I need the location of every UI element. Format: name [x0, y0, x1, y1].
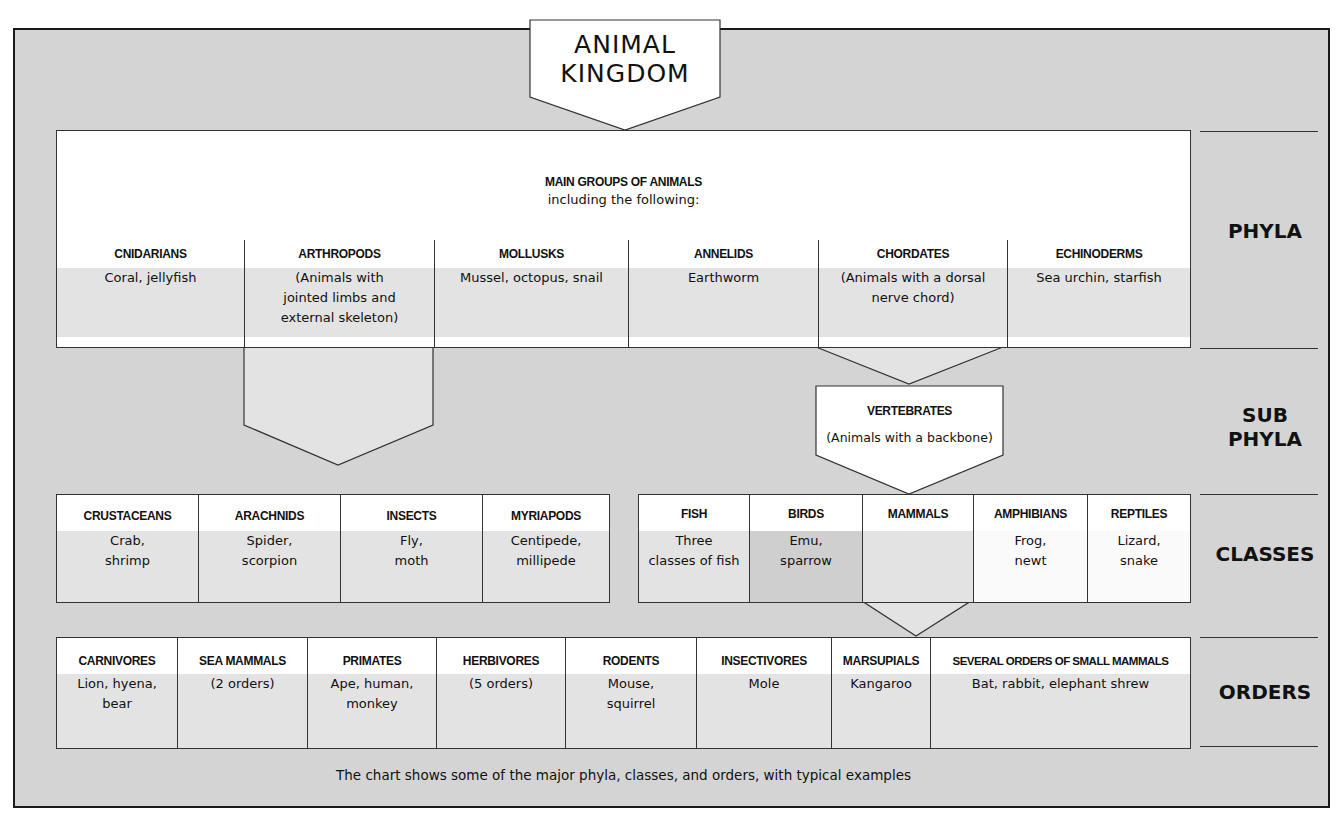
phylum-mollusks: MOLLUSKS Mussel, octopus, snail	[435, 240, 629, 347]
order-carnivores: CARNIVORES Lion, hyena, bear	[57, 638, 178, 748]
main-groups-heading: MAIN GROUPS OF ANIMALS	[57, 175, 1190, 189]
order-herbivores: HERBIVORES (5 orders)	[437, 638, 566, 748]
class-myriapods: MYRIAPODS Centipede, millipede	[483, 495, 609, 602]
chart-caption: The chart shows some of the major phyla,…	[56, 767, 1191, 783]
phylum-annelids: ANNELIDS Earthworm	[629, 240, 819, 347]
class-amphibians: AMPHIBIANS Frog, newt	[974, 495, 1088, 602]
class-mammals: MAMMALS	[863, 495, 974, 602]
class-birds: BIRDS Emu, sparrow	[750, 495, 863, 602]
class-insects: INSECTS Fly, moth	[341, 495, 483, 602]
order-rodents: RODENTS Mouse, squirrel	[566, 638, 697, 748]
phylum-chordates: CHORDATES (Animals with a dorsal nerve c…	[819, 240, 1008, 347]
subphylum-vertebrates: VERTEBRATES (Animals with a backbone)	[816, 402, 1003, 448]
phylum-cnidarians: CNIDARIANS Coral, jellyfish	[57, 240, 245, 347]
order-small-mammals: SEVERAL ORDERS OF SMALL MAMMALS Bat, rab…	[931, 638, 1190, 748]
class-crustaceans: CRUSTACEANS Crab, shrimp	[57, 495, 199, 602]
class-reptiles: REPTILES Lizard, snake	[1088, 495, 1190, 602]
order-insectivores: INSECTIVORES Mole	[697, 638, 832, 748]
phyla-row: CNIDARIANS Coral, jellyfish ARTHROPODS (…	[57, 240, 1190, 347]
mammal-orders-box: CARNIVORES Lion, hyena, bear SEA MAMMALS…	[56, 637, 1191, 749]
page-title: ANIMAL KINGDOM	[530, 30, 720, 88]
phylum-arthropods: ARTHROPODS (Animals with jointed limbs a…	[245, 240, 435, 347]
order-sea-mammals: SEA MAMMALS (2 orders)	[178, 638, 308, 748]
arthropod-classes-box: CRUSTACEANS Crab, shrimp ARACHNIDS Spide…	[56, 494, 610, 603]
class-arachnids: ARACHNIDS Spider, scorpion	[199, 495, 341, 602]
order-marsupials: MARSUPIALS Kangaroo	[832, 638, 931, 748]
order-primates: PRIMATES Ape, human, monkey	[308, 638, 437, 748]
class-fish: FISH Three classes of fish	[639, 495, 750, 602]
main-groups-subheading: including the following:	[57, 190, 1190, 210]
vertebrate-classes-box: FISH Three classes of fish BIRDS Emu, sp…	[638, 494, 1191, 603]
phylum-echinoderms: ECHINODERMS Sea urchin, starfish	[1008, 240, 1190, 347]
